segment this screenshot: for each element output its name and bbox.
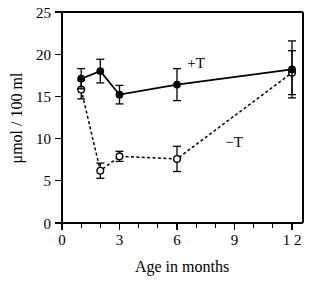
data-point-filled <box>174 81 181 88</box>
series-minus-t-markers <box>78 69 295 174</box>
data-point-filled <box>78 75 85 82</box>
chart-figure: 0 5 10 15 20 25 0 3 6 9 1 2 <box>0 0 324 282</box>
y-tick-label-5: 5 <box>44 173 52 189</box>
y-tick-label-20: 20 <box>36 47 51 63</box>
y-tick-label-0: 0 <box>44 216 52 232</box>
y-tick-label-25: 25 <box>36 5 51 21</box>
data-point-filled <box>97 68 104 75</box>
x-axis-title: Age in months <box>135 258 229 276</box>
data-point-filled <box>116 91 123 98</box>
y-tick-label-10: 10 <box>36 131 51 147</box>
series-plus-t-line-main <box>81 69 292 94</box>
data-point-open <box>116 153 123 160</box>
data-point-open <box>174 156 181 163</box>
axis-frame <box>62 12 303 223</box>
x-tick-label-9: 9 <box>231 232 239 248</box>
annotation-minus-t: −T <box>225 134 243 150</box>
x-axis-ticks: 0 3 6 9 1 2 <box>58 223 301 248</box>
y-tick-label-15: 15 <box>36 89 51 105</box>
x-tick-label-6: 6 <box>173 232 181 248</box>
y-axis-title: μmol / 100 ml <box>8 72 26 163</box>
x-tick-label-3: 3 <box>116 232 124 248</box>
data-point-open <box>97 167 104 174</box>
line-chart: 0 5 10 15 20 25 0 3 6 9 1 2 <box>0 0 324 282</box>
y-axis-ticks: 0 5 10 15 20 25 <box>36 5 62 232</box>
x-tick-label-0: 0 <box>58 232 66 248</box>
data-point-filled <box>289 66 296 73</box>
x-tick-label-12: 1 2 <box>283 232 302 248</box>
annotation-plus-t: +T <box>187 55 205 71</box>
